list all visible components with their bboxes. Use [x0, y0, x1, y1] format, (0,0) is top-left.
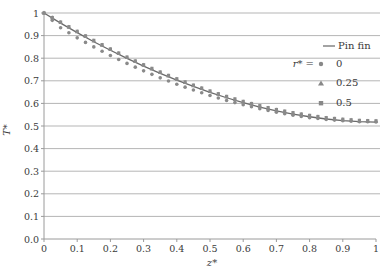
marker-circle	[167, 79, 171, 83]
x-axis-ticks: 00.10.20.30.40.50.60.70.80.91	[41, 239, 379, 254]
marker-circle	[109, 54, 113, 58]
marker-square	[316, 115, 319, 118]
marker-square	[117, 51, 120, 54]
legend-marker-prefix: r* =	[293, 58, 314, 69]
marker-circle	[192, 88, 196, 92]
legend-square-icon	[319, 101, 323, 105]
marker-circle	[208, 94, 212, 98]
chart: 0.00.10.20.30.40.50.60.70.80.91 00.10.20…	[0, 0, 391, 278]
marker-square	[366, 119, 369, 122]
marker-square	[134, 59, 137, 62]
x-tick-label: 0.2	[103, 243, 118, 254]
y-tick-label: 0.5	[24, 121, 39, 132]
marker-square	[250, 102, 253, 105]
marker-square	[350, 118, 353, 121]
y-axis-ticks: 0.00.10.20.30.40.50.60.70.80.91	[24, 8, 44, 245]
y-tick-label: 0.0	[24, 234, 39, 245]
marker-square	[175, 77, 178, 80]
series-pin-fin-line	[44, 13, 376, 122]
marker-square	[333, 117, 336, 120]
x-tick-label: 0.6	[236, 243, 251, 254]
marker-circle	[142, 69, 146, 73]
marker-square	[92, 39, 95, 42]
x-tick-label: 0	[41, 243, 47, 254]
y-tick-label: 0.4	[24, 143, 39, 154]
marker-circle	[175, 82, 179, 86]
y-tick-label: 0.7	[24, 75, 39, 86]
marker-circle	[92, 45, 96, 49]
marker-square	[51, 16, 54, 19]
marker-square	[184, 80, 187, 83]
y-tick-label: 0.6	[24, 98, 39, 109]
y-axis-label: T*	[1, 124, 12, 136]
marker-square	[217, 92, 220, 95]
y-tick-label: 1	[33, 8, 39, 19]
y-tick-label: 0.3	[24, 166, 39, 177]
marker-square	[233, 97, 236, 100]
legend-entry-2: 0.5	[336, 97, 352, 108]
marker-square	[67, 25, 70, 28]
y-tick-label: 0.9	[24, 30, 39, 41]
marker-square	[267, 106, 270, 109]
gridlines	[44, 13, 380, 216]
marker-square	[159, 70, 162, 73]
x-tick-label: 1	[373, 243, 379, 254]
marker-square	[125, 55, 128, 58]
marker-square	[341, 118, 344, 121]
marker-circle	[84, 41, 88, 45]
marker-square	[291, 111, 294, 114]
x-tick-label: 0.5	[202, 243, 217, 254]
marker-square	[59, 20, 62, 23]
marker-square	[275, 108, 278, 111]
marker-square	[283, 109, 286, 112]
y-tick-label: 0.8	[24, 53, 39, 64]
marker-circle	[100, 49, 104, 53]
marker-circle	[225, 99, 229, 103]
marker-circle	[125, 62, 129, 66]
marker-circle	[158, 76, 162, 80]
marker-circle	[150, 73, 154, 77]
marker-square	[167, 74, 170, 77]
x-tick-label: 0.8	[302, 243, 317, 254]
y-tick-label: 0.1	[24, 211, 39, 222]
marker-circle	[241, 103, 245, 107]
legend-line-label: Pin fin	[338, 40, 371, 51]
marker-square	[258, 104, 261, 107]
x-tick-label: 0.3	[136, 243, 151, 254]
x-tick-label: 0.7	[269, 243, 284, 254]
marker-square	[208, 89, 211, 92]
marker-circle	[59, 26, 63, 30]
marker-square	[374, 119, 377, 122]
marker-circle	[217, 96, 221, 100]
marker-circle	[67, 31, 71, 35]
marker-square	[200, 86, 203, 89]
legend: Pin fin r* = 0 0.25 0.5	[293, 40, 372, 108]
marker-square	[325, 116, 328, 119]
marker-circle	[200, 91, 204, 95]
marker-square	[242, 100, 245, 103]
marker-circle	[75, 36, 79, 40]
marker-square	[308, 114, 311, 117]
x-axis-label: z*	[206, 257, 217, 268]
marker-circle	[183, 85, 187, 89]
marker-square	[142, 63, 145, 66]
legend-circle-icon	[319, 62, 323, 66]
marker-square	[225, 95, 228, 98]
marker-square	[150, 67, 153, 70]
marker-square	[109, 47, 112, 50]
marker-square	[42, 11, 45, 14]
legend-entry-0: 0	[336, 58, 342, 69]
marker-square	[84, 34, 87, 37]
marker-circle	[134, 65, 138, 69]
marker-square	[101, 43, 104, 46]
marker-square	[192, 83, 195, 86]
data-series	[42, 11, 378, 124]
marker-square	[358, 119, 361, 122]
marker-circle	[233, 101, 237, 105]
legend-entry-1: 0.25	[336, 77, 358, 88]
y-tick-label: 0.2	[24, 188, 39, 199]
marker-circle	[117, 58, 121, 62]
x-tick-label: 0.1	[70, 243, 85, 254]
x-tick-label: 0.9	[335, 243, 350, 254]
marker-square	[76, 30, 79, 33]
